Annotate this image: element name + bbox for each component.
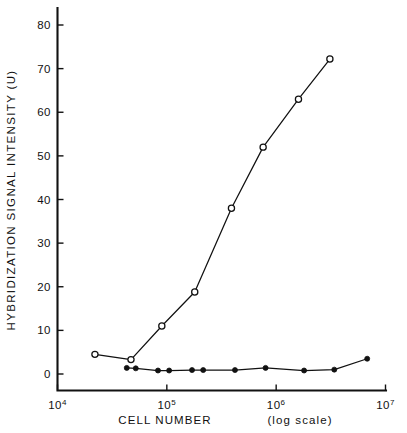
x-tick-label-10^5: 105 xyxy=(157,398,176,411)
y-tick-group: 01020304050607080 xyxy=(37,19,63,380)
y-axis-title: HYBRIDIZATION SIGNAL INTENSITY (U) xyxy=(5,69,17,330)
data-point-open-circle-series-6 xyxy=(295,96,301,102)
y-tick-label-0: 0 xyxy=(44,368,51,380)
axis-lines xyxy=(58,8,387,391)
y-tick-label-60: 60 xyxy=(37,106,51,118)
y-tick-label-10: 10 xyxy=(37,324,51,336)
series-line-filled-circle-series xyxy=(127,359,367,371)
y-tick-label-30: 30 xyxy=(37,237,51,249)
x-tick-label-10^4: 104 xyxy=(48,398,67,411)
data-point-filled-circle-series-6 xyxy=(232,368,237,373)
data-point-filled-circle-series-2 xyxy=(155,368,160,373)
data-point-filled-circle-series-1 xyxy=(133,366,138,371)
data-point-filled-circle-series-5 xyxy=(201,368,206,373)
chart-plot: HYBRIDIZATION SIGNAL INTENSITY (U) 01020… xyxy=(0,0,407,433)
data-point-open-circle-series-0 xyxy=(92,351,98,357)
series-line-open-circle-series xyxy=(95,59,330,360)
data-point-open-circle-series-5 xyxy=(260,144,266,150)
y-tick-label-20: 20 xyxy=(37,281,51,293)
data-point-open-circle-series-7 xyxy=(327,56,333,62)
y-tick-label-40: 40 xyxy=(37,194,51,206)
data-point-filled-circle-series-8 xyxy=(302,368,307,373)
data-point-open-circle-series-4 xyxy=(228,205,234,211)
x-tick-label-10^7: 107 xyxy=(376,398,395,411)
data-point-open-circle-series-1 xyxy=(128,357,134,363)
data-point-open-circle-series-2 xyxy=(159,323,165,329)
series-group xyxy=(92,56,370,373)
x-tick-group: 104105106107 xyxy=(48,385,395,412)
data-point-filled-circle-series-3 xyxy=(167,368,172,373)
data-point-filled-circle-series-7 xyxy=(263,365,268,370)
figure-canvas: HYBRIDIZATION SIGNAL INTENSITY (U) 01020… xyxy=(0,0,407,433)
data-point-filled-circle-series-0 xyxy=(124,365,129,370)
data-point-open-circle-series-3 xyxy=(192,289,198,295)
y-tick-label-80: 80 xyxy=(37,19,51,31)
data-point-filled-circle-series-4 xyxy=(190,368,195,373)
y-tick-label-50: 50 xyxy=(37,150,51,162)
data-point-filled-circle-series-9 xyxy=(332,367,337,372)
x-axis-title-paren: (log scale) xyxy=(267,414,332,426)
data-point-filled-circle-series-10 xyxy=(365,356,370,361)
x-axis-title-main: CELL NUMBER xyxy=(118,414,211,426)
x-tick-label-10^6: 106 xyxy=(267,398,286,411)
y-tick-label-70: 70 xyxy=(37,63,51,75)
